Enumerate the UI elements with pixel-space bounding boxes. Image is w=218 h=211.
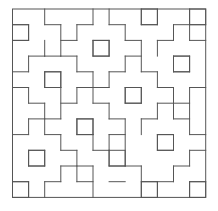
tile-edges	[13, 9, 206, 197]
unit-square	[141, 182, 157, 198]
unit-square	[13, 182, 29, 198]
unit-square	[141, 9, 157, 25]
tiling-diagram	[0, 0, 218, 211]
unit-square	[190, 182, 206, 198]
unit-square	[45, 72, 61, 88]
unit-square	[109, 150, 125, 166]
unit-square	[157, 135, 173, 151]
unit-square	[77, 119, 93, 135]
unit-square	[13, 25, 29, 41]
unit-square	[29, 150, 45, 166]
unit-square	[190, 9, 206, 25]
unit-square	[93, 40, 109, 56]
unit-square	[174, 56, 190, 72]
unit-square	[125, 88, 141, 104]
